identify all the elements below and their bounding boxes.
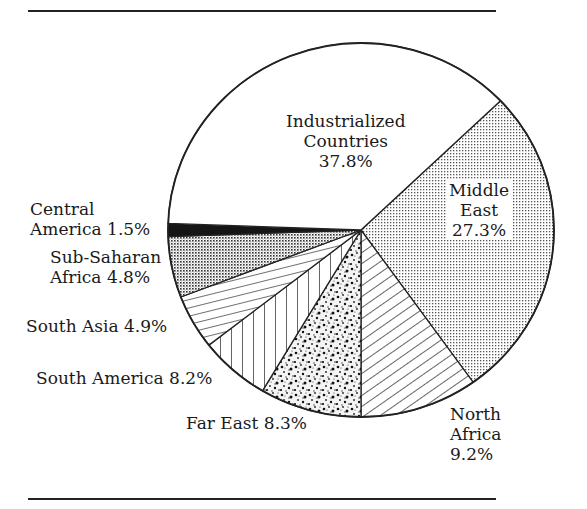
bottom-rule (28, 498, 496, 500)
label-middle-east: Middle East 27.3% (446, 180, 512, 240)
label-far-east: Far East 8.3% (186, 413, 307, 433)
label-industrialized: Industrialized Countries 37.8% (286, 111, 406, 171)
label-north-africa: North Africa 9.2% (450, 404, 502, 464)
label-central-america: Central America 1.5% (30, 199, 150, 239)
label-sub-saharan: Sub-Saharan Africa 4.8% (50, 247, 161, 287)
label-south-america: South America 8.2% (36, 368, 212, 388)
label-south-asia: South Asia 4.9% (26, 316, 167, 336)
